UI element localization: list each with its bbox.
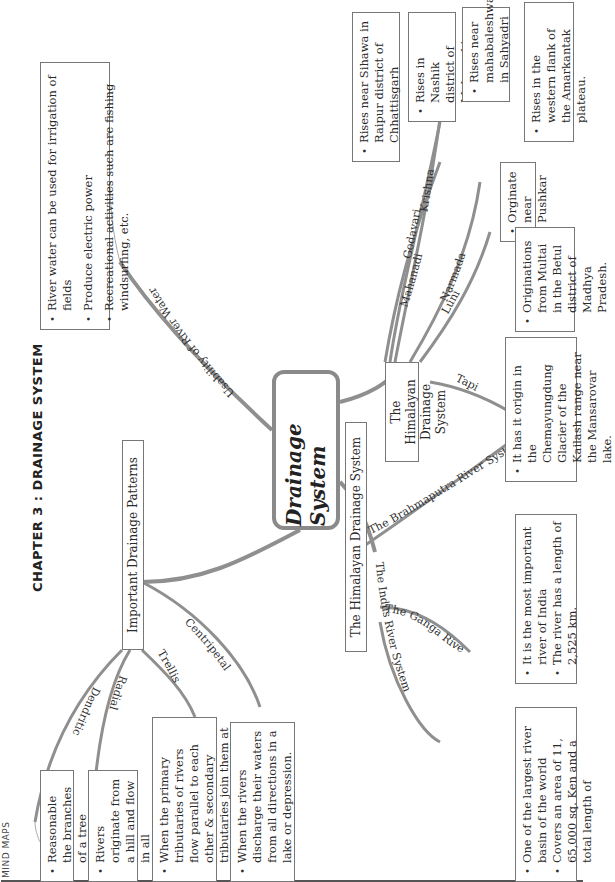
- central-node-label: Drainage System: [282, 374, 330, 526]
- krishna-point: Rises near mahabaleshwar in Sahyadri: [467, 14, 512, 83]
- mahanadi-box: Rises near Sihawa in Raipur district of …: [352, 12, 400, 162]
- ganga-point: It is the most important river of India: [520, 521, 550, 665]
- indus-point: One of the largest river basin of the wo…: [520, 714, 550, 863]
- trellis-box: When the primary tributaries of rivers f…: [152, 717, 217, 882]
- usability-point: River water can be used for irrigation o…: [45, 69, 75, 311]
- krishna-box: Rises near mahabaleshwar in Sahyadri: [462, 7, 510, 102]
- luni-point: Orginate near Pushkar: [505, 169, 550, 223]
- branch-label-radial: Radial: [106, 674, 129, 712]
- patterns-node: Important Drainage Patterns: [122, 440, 144, 650]
- branch-label-krishna: Krishna: [417, 168, 437, 213]
- indus-box: One of the largest river basin of the wo…: [515, 707, 577, 882]
- dendritic-point: Reasonable the branches of a tree: [45, 777, 90, 863]
- central-node: Drainage System: [272, 370, 340, 530]
- narmada-box: Rises in the western flank of the Amarka…: [524, 2, 574, 142]
- godavari-box: Rises in Nashik district of Maharashtra: [408, 12, 456, 122]
- branch-label-usability: Usability of River Water: [145, 284, 237, 399]
- brahmaputra-box: It has it origin in the Chemayungdung Gl…: [505, 337, 577, 482]
- brahmaputra-point: It has it origin in the Chemayungdung Gl…: [510, 344, 615, 463]
- dendritic-box: Reasonable the branches of a tree: [40, 770, 74, 882]
- usability-point: Recreational activities such are fishing…: [102, 69, 132, 311]
- usability-point: Produce electric power: [81, 69, 96, 311]
- tapi-point: Originations from Multai in the Betul di…: [520, 234, 610, 313]
- narmada-point: Rises in the western flank of the Amarka…: [529, 9, 589, 123]
- branch-label-centripetal: Centripetal: [182, 616, 233, 674]
- ganga-point: The river has a length of 2,525 km.: [550, 521, 580, 665]
- mahanadi-point: Rises near Sihawa in Raipur district of …: [357, 19, 402, 143]
- tapi-box: Originations from Multai in the Betul di…: [515, 227, 575, 332]
- peninsular-node: The Himalayan Drainage System: [385, 362, 419, 462]
- ganga-box: It is the most important river of India …: [515, 514, 577, 684]
- radial-box: Rivers originate from a hill and flow in…: [88, 770, 138, 882]
- himalayan-node: The Himalayan Drainage System: [345, 422, 367, 652]
- centripetal-point: When the rivers discharge their waters f…: [235, 729, 295, 863]
- usability-box: River water can be used for irrigation o…: [40, 62, 110, 330]
- indus-point: Covers an area of 11, 65,000 sq. Ken and…: [550, 714, 595, 863]
- centripetal-box: When the rivers discharge their waters f…: [230, 722, 295, 882]
